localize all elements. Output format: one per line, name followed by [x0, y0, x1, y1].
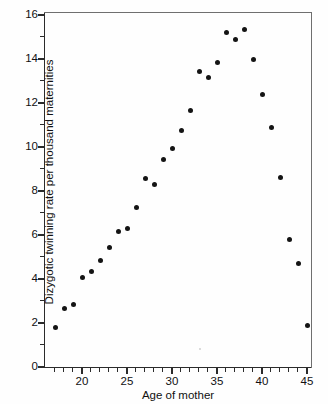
plot-top-rule [44, 12, 312, 13]
data-point [260, 92, 265, 97]
x-tick-major [261, 368, 262, 374]
data-point [296, 261, 301, 266]
y-tick-label: 16 [8, 9, 38, 21]
x-tick-minor [279, 368, 280, 372]
data-point [278, 175, 283, 180]
y-tick-major [38, 366, 44, 367]
data-point [242, 27, 247, 32]
data-point [107, 245, 112, 250]
y-tick-label: 10 [8, 141, 38, 153]
x-tick-minor [234, 368, 235, 372]
data-point [269, 125, 274, 130]
data-point [98, 258, 103, 263]
x-tick-minor [189, 368, 190, 372]
x-tick-minor [63, 368, 64, 372]
plot-right-rule [311, 12, 312, 368]
x-tick-minor [108, 368, 109, 372]
print-speck [199, 348, 201, 350]
x-tick-major [171, 368, 172, 374]
x-tick-major [216, 368, 217, 374]
x-tick-label: 45 [292, 376, 322, 388]
y-tick-label: 2 [8, 317, 38, 329]
x-tick-label: 20 [67, 376, 97, 388]
x-tick-minor [207, 368, 208, 372]
data-point [305, 323, 310, 328]
data-point [287, 237, 292, 242]
x-tick-minor [270, 368, 271, 372]
y-tick-minor [40, 344, 44, 345]
x-tick-minor [225, 368, 226, 372]
x-tick-minor [54, 368, 55, 372]
x-tick-label: 25 [112, 376, 142, 388]
x-tick-minor [198, 368, 199, 372]
x-tick-minor [144, 368, 145, 372]
data-point [71, 302, 76, 307]
data-point [125, 226, 130, 231]
y-tick-label: 6 [8, 229, 38, 241]
y-tick-label: 8 [8, 185, 38, 197]
x-tick-label: 35 [202, 376, 232, 388]
data-point [89, 269, 94, 274]
data-point [62, 306, 67, 311]
x-tick-minor [153, 368, 154, 372]
x-tick-major [126, 368, 127, 374]
data-point [206, 75, 211, 80]
y-axis-title: Dizygotic twinning rate per thousand mat… [43, 37, 55, 327]
data-point [116, 229, 121, 234]
x-tick-minor [288, 368, 289, 372]
x-tick-minor [72, 368, 73, 372]
data-point [161, 157, 166, 162]
y-tick-major [38, 14, 44, 15]
data-point [251, 57, 256, 62]
data-point [179, 128, 184, 133]
x-axis-line [44, 367, 312, 368]
data-point [80, 275, 85, 280]
data-point [152, 182, 157, 187]
x-tick-minor [243, 368, 244, 372]
x-tick-label: 40 [247, 376, 277, 388]
y-tick-label: 4 [8, 273, 38, 285]
data-point [143, 176, 148, 181]
data-point [215, 60, 220, 65]
x-tick-major [81, 368, 82, 374]
y-tick-label: 12 [8, 97, 38, 109]
x-tick-major [306, 368, 307, 374]
x-tick-minor [135, 368, 136, 372]
x-tick-minor [297, 368, 298, 372]
data-point [197, 69, 202, 74]
scatter-plot-figure: 0246810121416202530354045 Age of mother … [0, 0, 328, 404]
x-tick-minor [180, 368, 181, 372]
data-point [188, 108, 193, 113]
x-tick-minor [99, 368, 100, 372]
y-tick-label: 14 [8, 53, 38, 65]
data-point [134, 205, 139, 210]
y-tick-label: 0 [8, 361, 38, 373]
x-tick-minor [162, 368, 163, 372]
x-tick-minor [252, 368, 253, 372]
x-tick-label: 30 [157, 376, 187, 388]
x-tick-minor [90, 368, 91, 372]
data-point [170, 146, 175, 151]
x-axis-title: Age of mother [44, 389, 312, 401]
data-point [233, 37, 238, 42]
x-tick-minor [117, 368, 118, 372]
data-point [224, 30, 229, 35]
